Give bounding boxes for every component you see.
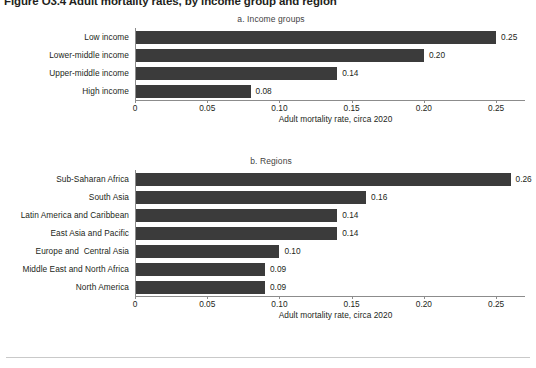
bar-track: 0.09 [135,278,536,296]
bar-value-label: 0.26 [516,174,532,184]
x-axis-ticklabel: 0.05 [199,103,215,113]
bar [135,191,366,204]
chart-subtitle-a: a. Income groups [0,14,536,24]
plot-area-b: Sub-Saharan Africa0.26South Asia0.16Lati… [0,170,536,320]
bar-value-label: 0.14 [342,228,358,238]
bar-track: 0.16 [135,188,536,206]
bar-row: High income0.08 [0,82,536,100]
bar-category-label: Latin America and Caribbean [0,210,135,220]
y-axis-baseline [135,170,136,296]
bar-row: South Asia0.16 [0,188,536,206]
bar-category-label: East Asia and Pacific [0,228,135,238]
bar-value-label: 0.09 [270,264,286,274]
chart-panel-regions: b. Regions Sub-Saharan Africa0.26South A… [0,156,536,320]
bar-category-label: Upper-middle income [0,68,135,78]
y-axis-baseline [135,28,136,100]
chart-panel-income-groups: a. Income groups Low income0.25Lower-mid… [0,14,536,124]
bar-category-label: Middle East and North Africa [0,264,135,274]
bar-category-label: High income [0,86,135,96]
bar [135,209,337,222]
x-axis-ticklabel: 0.05 [199,299,215,309]
bar-track: 0.25 [135,28,536,46]
bar-value-label: 0.14 [342,210,358,220]
bar-value-label: 0.14 [342,68,358,78]
bar-value-label: 0.08 [256,86,272,96]
bar-row: Low income0.25 [0,28,536,46]
bar [135,281,265,294]
bar [135,49,424,62]
bar-track: 0.14 [135,64,536,82]
bar-category-label: Low income [0,32,135,42]
bar-value-label: 0.20 [429,50,445,60]
bar-category-label: North America [0,282,135,292]
bar [135,31,496,44]
bar-category-label: South Asia [0,192,135,202]
bar-category-label: Europe and Central Asia [0,246,135,256]
x-axis-ticklabel: 0.15 [344,103,360,113]
bar [135,173,511,186]
bar [135,227,337,240]
bar-row: Upper-middle income0.14 [0,64,536,82]
bar-track: 0.09 [135,260,536,278]
bar-track: 0.14 [135,206,536,224]
x-axis-ticklabel: 0 [133,103,138,113]
x-axis-ticklabel: 0.15 [344,299,360,309]
bar-category-label: Lower-middle income [0,50,135,60]
bar [135,67,337,80]
x-axis-title-a: Adult mortality rate, circa 2020 [0,114,536,124]
bar-track: 0.08 [135,82,536,100]
chart-subtitle-b: b. Regions [0,156,536,166]
bar-rows-a: Low income0.25Lower-middle income0.20Upp… [0,28,536,100]
x-axis-title-b: Adult mortality rate, circa 2020 [0,310,536,320]
bar-row: Lower-middle income0.20 [0,46,536,64]
bar-category-label: Sub-Saharan Africa [0,174,135,184]
figure-title: Figure O3.4 Adult mortality rates, by in… [4,0,337,8]
x-axis-ticklabels-a: 00.050.100.150.200.25 [135,101,525,114]
x-axis-ticklabel: 0.25 [488,103,504,113]
x-axis-ticklabel: 0.10 [271,103,287,113]
bar-row: Middle East and North Africa0.09 [0,260,536,278]
bar-row: Europe and Central Asia0.10 [0,242,536,260]
bar-rows-b: Sub-Saharan Africa0.26South Asia0.16Lati… [0,170,536,296]
bar-row: Latin America and Caribbean0.14 [0,206,536,224]
bar-track: 0.10 [135,242,536,260]
bar-row: East Asia and Pacific0.14 [0,224,536,242]
bar [135,263,265,276]
figure-title-text: Adult mortality rates, by income group a… [69,0,337,7]
bar-track: 0.26 [135,170,536,188]
x-axis-ticklabel: 0.20 [416,299,432,309]
bar-value-label: 0.09 [270,282,286,292]
x-axis-ticklabel: 0.10 [271,299,287,309]
x-axis-ticklabel: 0 [133,299,138,309]
plot-area-a: Low income0.25Lower-middle income0.20Upp… [0,28,536,124]
bar-row: Sub-Saharan Africa0.26 [0,170,536,188]
x-axis-ticklabel: 0.20 [416,103,432,113]
x-axis-ticklabel: 0.25 [488,299,504,309]
bar-track: 0.14 [135,224,536,242]
bar [135,245,279,258]
x-axis-ticklabels-b: 00.050.100.150.200.25 [135,297,525,310]
figure-number: Figure O3.4 [4,0,66,7]
bar-track: 0.20 [135,46,536,64]
bar-value-label: 0.16 [371,192,387,202]
bar-value-label: 0.10 [284,246,300,256]
footer-divider [6,357,530,358]
bar-row: North America0.09 [0,278,536,296]
bar [135,85,251,98]
bar-value-label: 0.25 [501,32,517,42]
